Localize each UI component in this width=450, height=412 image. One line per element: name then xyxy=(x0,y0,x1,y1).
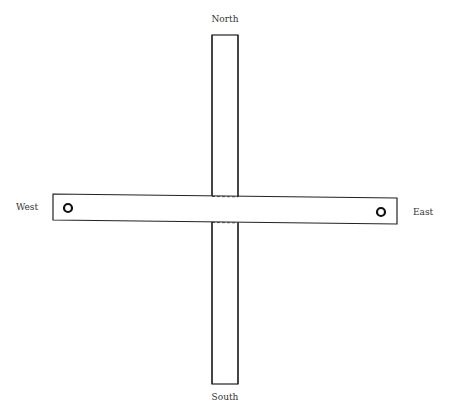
west-east-bar xyxy=(53,194,397,224)
crossroads-diagram: North South West East xyxy=(0,0,450,412)
south-label: South xyxy=(212,392,239,402)
east-label: East xyxy=(413,207,434,217)
north-label: North xyxy=(211,14,238,24)
west-label: West xyxy=(16,202,38,212)
